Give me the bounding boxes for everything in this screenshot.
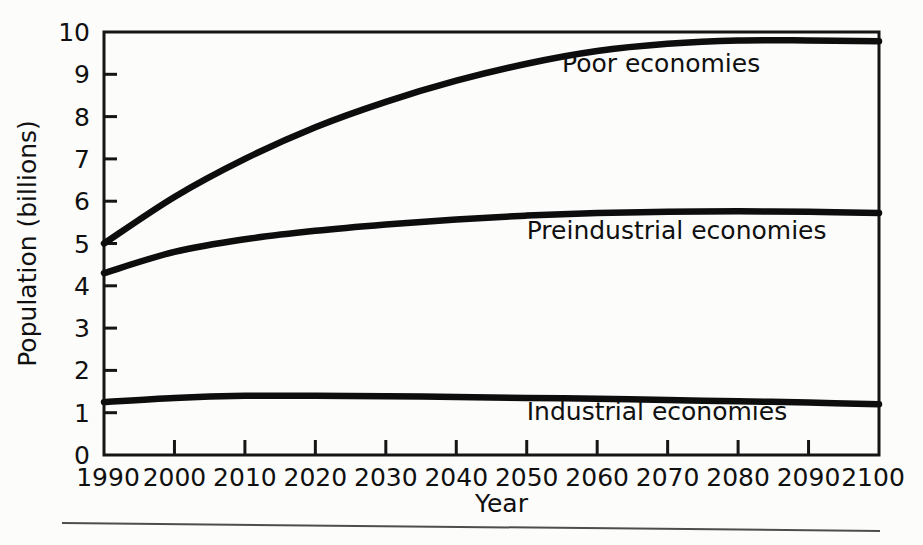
x-axis-ticks	[174, 440, 808, 455]
x-tick-label: 2040	[424, 463, 488, 492]
population-projection-chart: 012345678910 199020002010202020302040205…	[0, 0, 923, 545]
y-tick-label: 3	[74, 314, 90, 343]
y-axis-title: Population (billions)	[13, 120, 42, 367]
series-label-2: Industrial economies	[527, 397, 787, 426]
footer-rule	[62, 523, 880, 531]
x-tick-label: 2080	[706, 463, 770, 492]
x-tick-label: 2070	[636, 463, 700, 492]
series-label-1: Preindustrial economies	[527, 216, 827, 245]
y-tick-label: 5	[74, 230, 90, 259]
y-tick-label: 8	[74, 103, 90, 132]
y-tick-label: 4	[74, 272, 90, 301]
y-tick-label: 6	[74, 187, 90, 216]
y-tick-label: 1	[74, 399, 90, 428]
x-tick-label: 1990	[76, 463, 140, 492]
x-tick-label: 2020	[284, 463, 348, 492]
y-tick-label: 2	[74, 356, 90, 385]
x-tick-label: 2100	[841, 463, 905, 492]
x-tick-label: 2060	[565, 463, 629, 492]
chart-page: 012345678910 199020002010202020302040205…	[0, 0, 923, 545]
x-tick-label: 2030	[354, 463, 418, 492]
x-axis-tick-labels: 1990200020102020203020402050206020702080…	[76, 463, 905, 492]
series-label-0: Poor economies	[562, 49, 760, 78]
y-tick-label: 9	[74, 60, 90, 89]
y-axis-tick-labels: 012345678910	[58, 18, 90, 470]
series-labels: Poor economiesPreindustrial economiesInd…	[527, 49, 827, 426]
x-tick-label: 2090	[777, 463, 841, 492]
y-tick-label: 7	[74, 145, 90, 174]
x-tick-label: 2000	[143, 463, 207, 492]
x-axis-title: Year	[474, 489, 529, 518]
x-tick-label: 2050	[495, 463, 559, 492]
x-tick-label: 2010	[213, 463, 277, 492]
y-tick-label: 10	[58, 18, 90, 47]
